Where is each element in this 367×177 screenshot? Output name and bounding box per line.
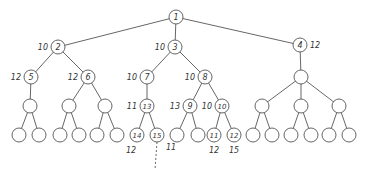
tree-node bbox=[62, 99, 76, 113]
tree-node bbox=[294, 99, 308, 113]
tree-node-8: 810 bbox=[185, 70, 212, 84]
node-circle bbox=[284, 128, 298, 142]
tree-node-1: 1 bbox=[169, 10, 183, 24]
tree-node bbox=[98, 99, 112, 113]
tree-diagram: 1210310412512612710810131191310101412151… bbox=[0, 0, 367, 177]
tree-node-4: 412 bbox=[293, 38, 320, 52]
node-weight-label: 12 bbox=[11, 73, 21, 82]
tree-node bbox=[12, 128, 26, 142]
node-label: 5 bbox=[28, 73, 33, 82]
node-weight-label: 10 bbox=[155, 43, 165, 52]
tree-node-10: 1010 bbox=[202, 99, 229, 113]
node-weight-label: 12 bbox=[126, 146, 136, 155]
node-circle bbox=[12, 128, 26, 142]
tree-node bbox=[265, 128, 279, 142]
tree-node bbox=[294, 70, 308, 84]
node-circle bbox=[62, 99, 76, 113]
node-label: 11 bbox=[210, 132, 219, 140]
tree-node bbox=[170, 128, 184, 142]
node-circle bbox=[342, 128, 356, 142]
tree-node-5: 512 bbox=[11, 70, 38, 84]
tree-node-9: 913 bbox=[170, 99, 197, 113]
node-weight-label: 10 bbox=[127, 73, 137, 82]
node-circle bbox=[170, 128, 184, 142]
node-circle bbox=[98, 99, 112, 113]
node-weight-label: 11 bbox=[166, 143, 176, 152]
tree-node-13: 1311 bbox=[127, 99, 154, 113]
tree-node bbox=[255, 99, 269, 113]
node-circle bbox=[53, 128, 67, 142]
node-circle bbox=[110, 128, 124, 142]
node-weight-label: 10 bbox=[38, 43, 48, 52]
tree-edge bbox=[176, 17, 300, 45]
node-label: 13 bbox=[143, 103, 152, 111]
tree-node-6: 612 bbox=[68, 70, 95, 84]
node-label: 15 bbox=[153, 132, 162, 140]
dashed-continuation-edge bbox=[155, 142, 157, 170]
tree-node bbox=[72, 128, 86, 142]
node-label: 14 bbox=[133, 132, 142, 140]
tree-diagram-svg: 1210310412512612710810131191310101412151… bbox=[0, 0, 367, 177]
node-circle bbox=[255, 99, 269, 113]
node-weight-label: 12 bbox=[68, 73, 78, 82]
node-circle bbox=[191, 128, 205, 142]
tree-node-3: 310 bbox=[155, 40, 182, 54]
node-label: 4 bbox=[297, 41, 302, 50]
tree-node-2: 210 bbox=[38, 40, 65, 54]
tree-node bbox=[246, 128, 260, 142]
node-weight-label: 11 bbox=[127, 102, 137, 111]
tree-node-7: 710 bbox=[127, 70, 154, 84]
node-circle bbox=[246, 128, 260, 142]
tree-node bbox=[332, 99, 346, 113]
node-circle bbox=[304, 128, 318, 142]
node-label: 2 bbox=[55, 43, 60, 52]
node-circle bbox=[32, 128, 46, 142]
node-label: 3 bbox=[172, 43, 177, 52]
node-circle bbox=[265, 128, 279, 142]
node-circle bbox=[90, 128, 104, 142]
node-label: 10 bbox=[218, 103, 227, 111]
node-circle bbox=[294, 99, 308, 113]
tree-node-11: 1112 bbox=[207, 128, 221, 155]
tree-node bbox=[304, 128, 318, 142]
node-label: 1 bbox=[173, 13, 178, 22]
node-label: 6 bbox=[85, 73, 90, 82]
node-label: 9 bbox=[187, 102, 192, 111]
node-label: 12 bbox=[230, 132, 239, 140]
node-weight-label: 13 bbox=[170, 102, 180, 111]
tree-node bbox=[342, 128, 356, 142]
tree-node-14: 1412 bbox=[126, 128, 144, 155]
tree-node bbox=[191, 128, 205, 142]
node-circle bbox=[332, 99, 346, 113]
node-circle bbox=[322, 128, 336, 142]
tree-node bbox=[32, 128, 46, 142]
node-label: 8 bbox=[202, 73, 207, 82]
node-weight-label: 10 bbox=[185, 73, 195, 82]
tree-node bbox=[23, 99, 37, 113]
node-weight-label: 10 bbox=[202, 102, 212, 111]
nodes-layer: 1210310412512612710810131191310101412151… bbox=[11, 10, 356, 155]
tree-node-12: 1215 bbox=[227, 128, 241, 155]
node-circle bbox=[294, 70, 308, 84]
tree-node bbox=[322, 128, 336, 142]
tree-node bbox=[90, 128, 104, 142]
node-circle bbox=[72, 128, 86, 142]
tree-node bbox=[53, 128, 67, 142]
tree-node bbox=[284, 128, 298, 142]
node-weight-label: 12 bbox=[209, 146, 219, 155]
tree-node bbox=[110, 128, 124, 142]
node-weight-label: 15 bbox=[229, 146, 239, 155]
node-weight-label: 12 bbox=[310, 41, 320, 50]
node-circle bbox=[23, 99, 37, 113]
